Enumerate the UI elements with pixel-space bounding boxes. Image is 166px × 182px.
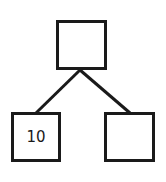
left-child-node: 10 <box>11 112 61 162</box>
right-child-node <box>104 112 155 162</box>
tree-diagram: 10 <box>0 0 166 182</box>
root-node <box>56 20 107 70</box>
edge-root-left <box>36 70 80 113</box>
edge-root-right <box>80 70 130 113</box>
left-child-node-label: 10 <box>26 128 45 146</box>
